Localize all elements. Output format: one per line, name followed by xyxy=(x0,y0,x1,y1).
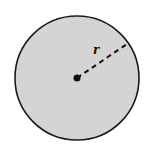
center-point xyxy=(74,75,81,82)
circle-diagram: r xyxy=(0,0,151,151)
